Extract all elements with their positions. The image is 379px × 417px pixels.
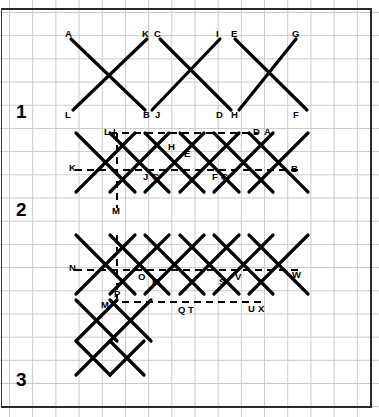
point-label-row-3-M: M [101,300,109,310]
point-label-row-2-E: E [184,149,190,159]
point-label-row-1-K: K [142,29,149,39]
point-label-row-2-G: G [152,172,159,182]
point-label-row-1-E: E [231,29,237,39]
point-label-row-3-S: S [219,277,225,287]
row-number-label-2: 2 [16,200,27,219]
row-number-label-1: 1 [16,102,27,121]
point-label-row-1-F: F [293,110,299,120]
point-label-row-1-G: G [292,29,299,39]
point-label-row-2-A: A [264,127,271,137]
point-label-row-3-P: P [114,289,120,299]
diagram-page: AKCIEGLBJDHFLIHEDAKBJGFCMNORSVWPMQTUX123 [0,0,379,417]
point-label-row-2-H: H [168,142,175,152]
row-number-label-3: 3 [16,370,27,389]
point-label-row-3-V: V [235,272,241,282]
point-label-row-3-O: O [138,272,145,282]
point-label-row-2-M: M [112,206,120,216]
point-label-row-3-W: W [292,270,301,280]
point-label-row-3-R: R [152,277,159,287]
point-label-row-2-F: F [212,172,218,182]
point-label-row-1-B: B [143,110,150,120]
row-2-dashed-lines [75,133,298,208]
point-label-row-3-X: X [258,304,264,314]
point-label-row-1-I: I [216,29,219,39]
point-label-row-2-I: I [113,127,116,137]
point-label-row-2-B: B [291,164,298,174]
point-label-row-1-J: J [155,110,160,120]
point-label-row-1-L: L [65,110,71,120]
solid-segment-C-D [160,39,231,110]
solid-segment-I-J [152,39,220,110]
point-label-row-3-N: N [69,263,76,273]
point-label-row-2-D: D [253,127,260,137]
row-1-solid-lines [71,39,307,110]
point-label-row-2-K: K [69,163,76,173]
point-label-row-3-U: U [248,304,255,314]
point-label-row-1-C: C [154,29,161,39]
point-label-row-1-A: A [65,29,72,39]
lattice-diagram-svg [0,0,379,417]
point-label-row-1-D: D [216,110,223,120]
point-label-row-1-H: H [231,110,238,120]
row-2-solid-lines [76,133,308,192]
point-label-row-3-T: T [188,305,194,315]
point-label-row-2-L: L [104,127,110,137]
point-label-row-2-C: C [221,172,228,182]
point-label-row-3-Q: Q [178,305,185,315]
point-label-row-2-J: J [143,172,148,182]
